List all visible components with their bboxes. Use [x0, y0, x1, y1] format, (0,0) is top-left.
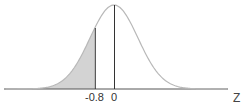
shaded-tail-area: [6, 28, 95, 89]
normal-distribution-chart: [0, 0, 248, 107]
tick-label-zero: 0: [111, 92, 117, 103]
normal-curve: [6, 5, 227, 89]
x-axis-label: Z: [233, 92, 240, 104]
tick-label-neg-0-8: -0.8: [85, 92, 104, 103]
